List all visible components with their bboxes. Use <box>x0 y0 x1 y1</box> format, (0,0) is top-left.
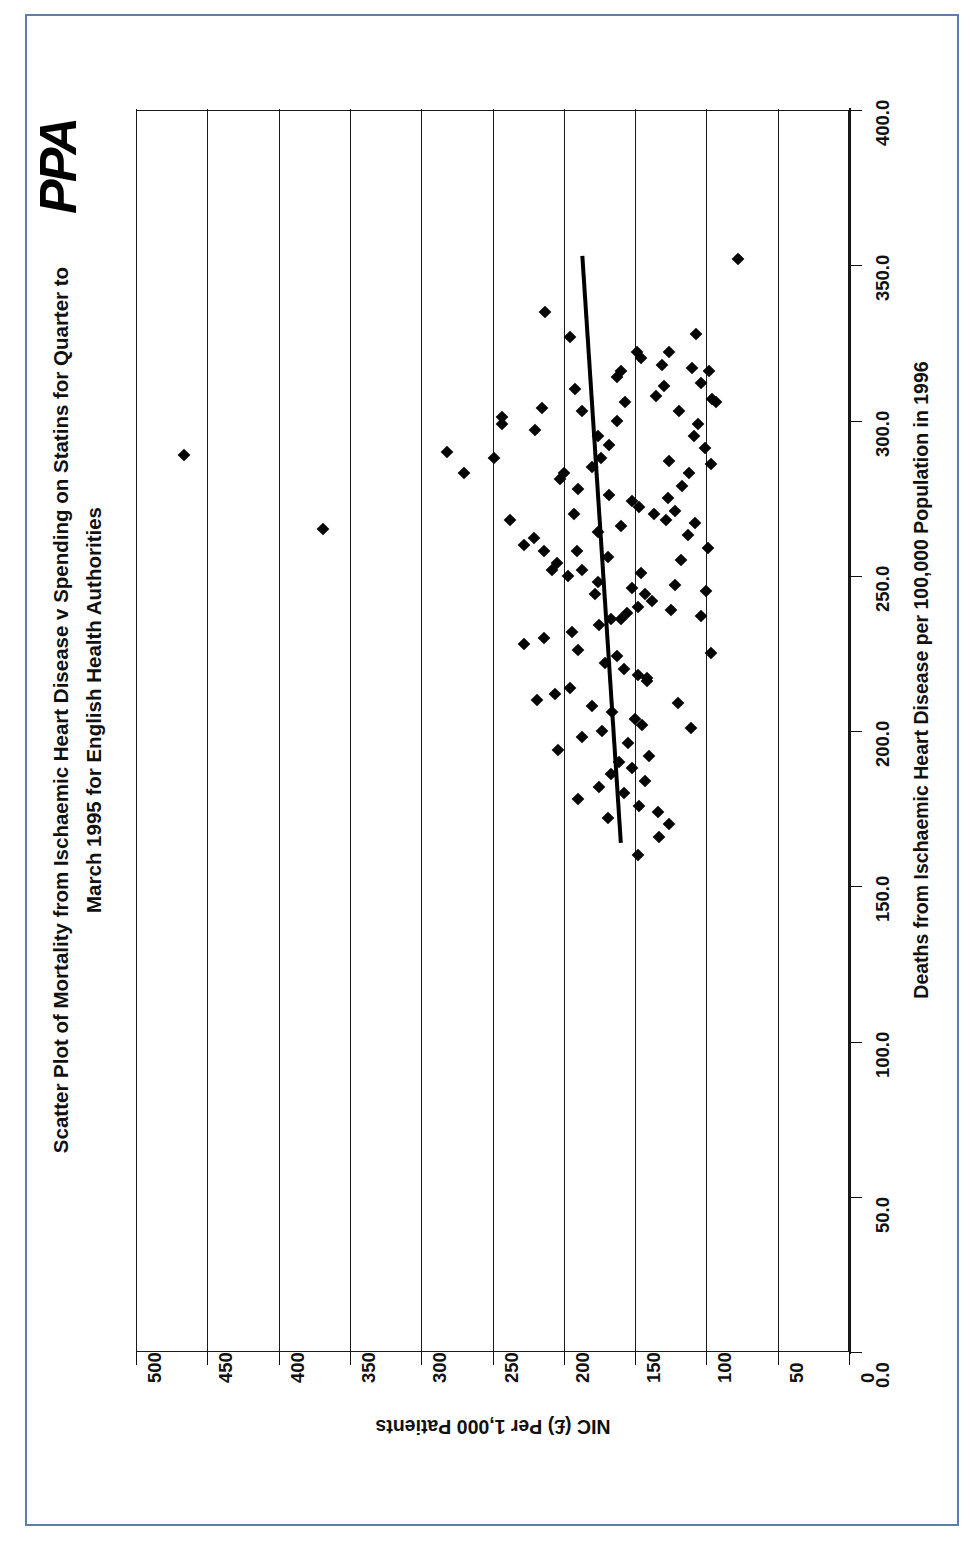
gridline <box>564 109 565 1353</box>
x-axis-tick <box>849 1352 862 1353</box>
gridline <box>350 109 351 1353</box>
y-axis-tick <box>635 1352 636 1365</box>
y-axis-tick-label: 250 <box>501 1352 523 1383</box>
page-canvas: PPA Scatter Plot of Mortality from Ischa… <box>0 0 974 1543</box>
x-axis-tick-label: 250.0 <box>872 565 894 611</box>
y-axis-tick <box>849 1352 850 1365</box>
x-axis-tick-label: 100.0 <box>872 1031 894 1077</box>
x-axis-tick <box>849 265 862 266</box>
chart-title-line-1: Scatter Plot of Mortality from Ischaemic… <box>44 120 77 1300</box>
y-axis-tick <box>778 1352 779 1365</box>
y-axis-tick <box>350 1352 351 1365</box>
gridline <box>706 109 707 1353</box>
x-axis-tick <box>849 576 862 577</box>
gridline <box>136 109 137 1353</box>
gridline <box>493 109 494 1353</box>
x-axis-tick <box>849 1042 862 1043</box>
y-axis-tick <box>564 1352 565 1365</box>
y-axis-tick <box>706 1352 707 1365</box>
gridline <box>421 109 422 1353</box>
x-axis-title: Deaths from Ischaemic Heart Disease per … <box>910 180 933 1180</box>
x-axis-tick <box>849 731 862 732</box>
x-axis-tick <box>849 886 862 887</box>
x-axis-tick <box>849 110 862 111</box>
gridline <box>207 109 208 1353</box>
x-axis-tick-label: 50.0 <box>872 1197 894 1233</box>
x-axis-tick-label: 0.0 <box>872 1362 894 1388</box>
y-axis-tick-label: 100 <box>714 1352 736 1383</box>
y-axis-tick-label: 450 <box>215 1352 237 1383</box>
y-axis-tick <box>279 1352 280 1365</box>
y-axis-tick-label: 300 <box>429 1352 451 1383</box>
x-axis-tick <box>849 1197 862 1198</box>
x-axis-tick-label: 150.0 <box>872 876 894 922</box>
chart-title-line-2: March 1995 for English Health Authoritie… <box>77 120 110 1300</box>
y-axis-tick-label: 400 <box>287 1352 309 1383</box>
y-axis-tick <box>136 1352 137 1365</box>
y-axis-tick-label: 200 <box>572 1352 594 1383</box>
gridline <box>279 109 280 1353</box>
y-axis-tick-label: 350 <box>358 1352 380 1383</box>
gridline <box>635 109 636 1353</box>
y-axis-tick <box>421 1352 422 1365</box>
y-axis-tick-label: 50 <box>786 1362 808 1383</box>
gridline <box>778 109 779 1353</box>
x-axis-tick-label: 400.0 <box>872 100 894 146</box>
chart-title: Scatter Plot of Mortality from Ischaemic… <box>44 120 110 1300</box>
y-axis-tick <box>207 1352 208 1365</box>
y-axis-tick-label: 500 <box>144 1352 166 1383</box>
x-axis-tick-label: 200.0 <box>872 721 894 767</box>
y-axis-tick-label: 150 <box>643 1352 665 1383</box>
y-axis-tick <box>493 1352 494 1365</box>
x-axis-tick-label: 300.0 <box>872 410 894 456</box>
x-axis-tick-label: 350.0 <box>872 255 894 301</box>
y-axis-title: NIC (£) Per 1,000 Patients <box>137 1398 849 1438</box>
x-axis-tick <box>849 421 862 422</box>
